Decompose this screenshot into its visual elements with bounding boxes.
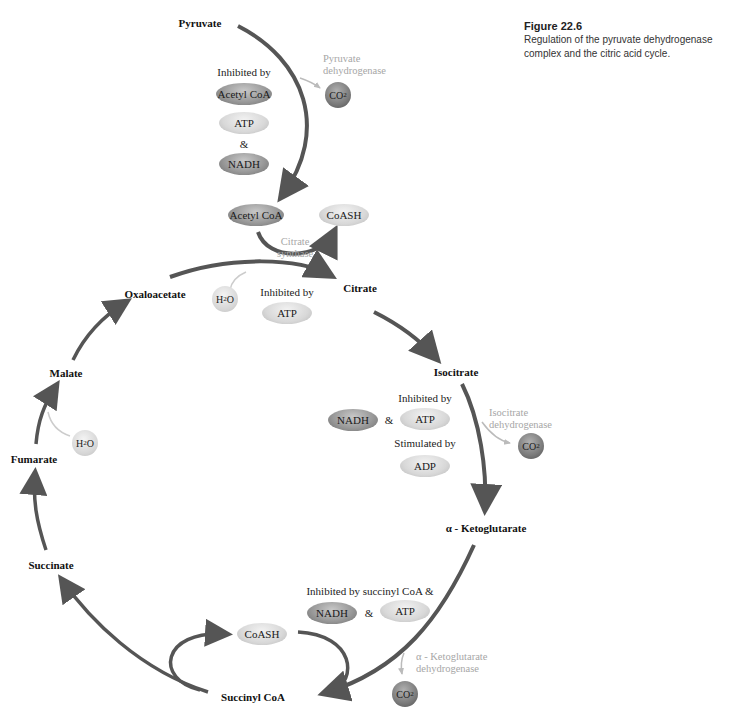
co2-idh: CO2 [518,433,544,459]
arrow-malate-to-oxaloacetate [73,302,126,360]
co2-subscript: 2 [343,91,347,99]
arrow-isocitrate-to-akg [462,384,485,508]
enzyme-line: α - Ketoglutarate [416,651,487,663]
caption-line-2: complex and the citric acid cycle. [524,47,712,60]
h2o-citrate-synthase: H2O [212,286,238,312]
arrow-h2o-fumarase [48,412,70,436]
h2o-text: H [216,294,223,305]
figure-label: Figure 22.6 [524,20,712,32]
idh-joiner: & [385,414,394,426]
molecule-acetyl-coa: Acetyl CoA [228,204,284,226]
pdh-joiner: & [240,138,249,150]
enzyme-line: synthase [277,248,313,260]
cs-inhibitor-atp: ATP [262,302,312,324]
arrow-coash-loop-right [298,632,348,692]
enzyme-isocitrate-dehydrogenase: Isocitrate dehydrogenase [489,407,552,431]
idh-stimulator-adp: ADP [400,455,450,477]
arrow-akgdh-co2 [401,653,404,674]
metabolite-citrate: Citrate [343,282,377,294]
metabolite-oxaloacetate: Oxaloacetate [124,288,185,300]
enzyme-pyruvate-dehydrogenase: Pyruvate dehydrogenase [323,53,386,77]
metabolite-alpha-ketoglutarate: α - Ketoglutarate [446,522,527,534]
metabolite-succinate: Succinate [28,559,73,571]
metabolite-isocitrate: Isocitrate [434,366,479,378]
diagram-canvas: Figure 22.6 Regulation of the pyruvate d… [0,0,732,723]
pdh-inhibitor-atp: ATP [219,112,269,134]
metabolite-malate: Malate [50,367,83,379]
idh-inhibitor-nadh: NADH [328,409,378,431]
arrow-succinylcoa-to-succinate [62,580,208,692]
idh-inhibited-by-label: Inhibited by [398,392,451,404]
co2-akgdh: CO2 [392,681,418,707]
enzyme-citrate-synthase: Citrate synthase [277,236,313,260]
enzyme-akg-dehydrogenase: α - Ketoglutarate dehydrogenase [416,651,487,675]
pdh-inhibited-by-label: Inhibited by [217,66,270,78]
co2-subscript: 2 [410,690,414,698]
pdh-inhibitor-acetyl-coa: Acetyl CoA [216,83,272,105]
enzyme-line: dehydrogenase [489,419,552,431]
enzyme-line: Citrate [277,236,313,248]
arrow-fumarate-to-malate [36,386,56,444]
h2o-fumarase: H2O [72,430,98,456]
molecule-coash: CoASH [319,204,369,226]
metabolite-fumarate: Fumarate [11,453,57,465]
metabolite-succinyl-coa: Succinyl CoA [221,691,285,703]
arrow-citrate-to-isocitrate [374,312,436,358]
h2o-text: O [87,438,94,449]
h2o-text: H [76,438,83,449]
pdh-inhibitor-nadh: NADH [219,153,269,175]
arrow-pdh-co2 [300,78,320,88]
co2-text: CO [329,90,343,101]
cs-inhibited-by-label: Inhibited by [260,286,313,298]
metabolite-pyruvate: Pyruvate [179,17,222,29]
arrow-succinate-to-fumarate [34,474,46,550]
molecule-coash-succinyl: CoASH [237,623,287,645]
figure-caption: Figure 22.6 Regulation of the pyruvate d… [524,20,712,60]
enzyme-line: dehydrogenase [323,65,386,77]
caption-line-1: Regulation of the pyruvate dehydrogenase [524,33,712,46]
idh-stimulated-by-label: Stimulated by [394,437,455,449]
enzyme-line: Isocitrate [489,407,552,419]
co2-subscript: 2 [536,442,540,450]
idh-inhibitor-atp: ATP [400,408,450,430]
enzyme-line: Pyruvate [323,53,386,65]
arrow-h2o-citrate [230,272,246,290]
akgdh-inhibitor-atp: ATP [380,600,430,622]
akgdh-inhibited-by-label: Inhibited by succinyl CoA & [306,585,433,597]
co2-text: CO [396,689,410,700]
akgdh-joiner: & [365,607,374,619]
arrow-oxaloacetate-to-citrate [170,261,330,277]
enzyme-line: dehydrogenase [416,663,487,675]
akgdh-inhibitor-nadh: NADH [307,602,357,624]
h2o-text: O [227,294,234,305]
co2-pdh: CO2 [325,82,351,108]
co2-text: CO [522,441,536,452]
